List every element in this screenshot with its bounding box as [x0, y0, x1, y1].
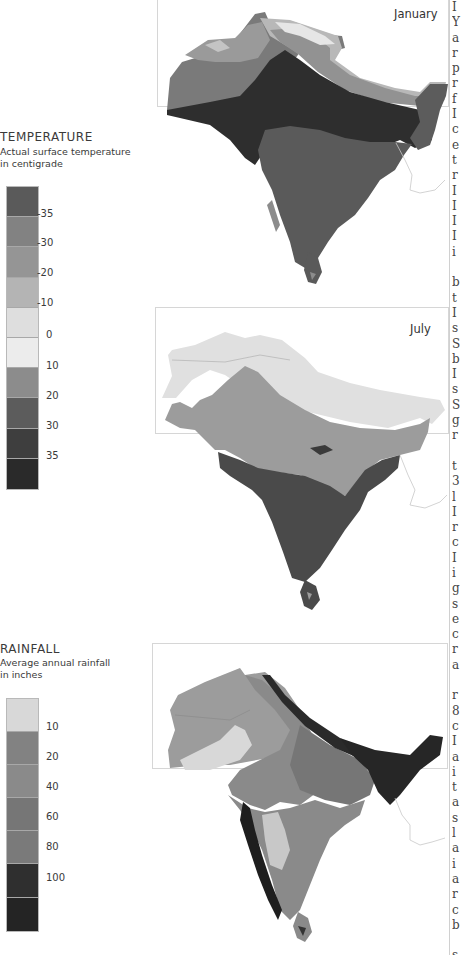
july-map-label: July [410, 322, 431, 336]
july-map-shapes [0, 300, 463, 620]
right-text-column-fragment: I Y a r p r f I c e t r I I I I i b t I … [452, 0, 463, 955]
january-map-label: January [394, 7, 438, 21]
rainfall-map-shapes [0, 630, 463, 955]
january-map-shapes [0, 0, 463, 300]
column-rule [449, 0, 450, 955]
